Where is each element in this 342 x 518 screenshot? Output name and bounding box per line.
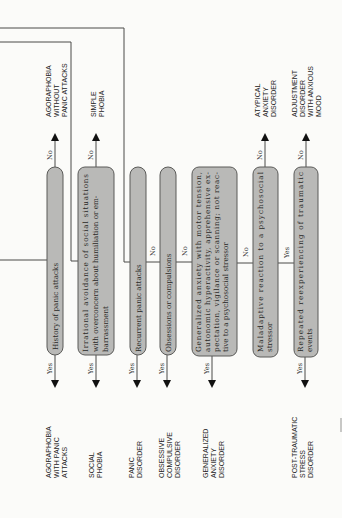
node-text: History of panic attacks [51, 263, 60, 350]
label-yes: Yes [296, 362, 304, 375]
svg-text:PHOBIA: PHOBIA [98, 90, 105, 117]
svg-text:SIMPLE: SIMPLE [90, 91, 97, 117]
svg-text:WITHOUT: WITHOUT [53, 84, 60, 117]
node-text: barrassment [101, 306, 110, 352]
outcome-agoraphobia-without-panic: AGORAPHOBIA WITHOUT PANIC ATTACKS [45, 63, 68, 117]
outcome-agoraphobia-with-panic: AGORAPHOBIA WITH PANIC ATTACKS [45, 426, 68, 478]
svg-text:WITH ANXIOUS: WITH ANXIOUS [307, 66, 314, 117]
node-text: autonomic hyperactivity, apprehensive ex… [203, 171, 212, 352]
svg-text:AGORAPHOBIA: AGORAPHOBIA [45, 65, 52, 117]
label-no: No [256, 150, 264, 160]
outcome-generalized-anxiety: GENERALIZED ANXIETY DISORDER [202, 429, 225, 478]
svg-text:STRESS: STRESS [299, 450, 306, 478]
svg-text:MOOD: MOOD [315, 95, 322, 117]
outcome-adjustment-disorder: ADJUSTMENT DISORDER WITH ANXIOUS MOOD [291, 66, 322, 117]
svg-text:POST-TRAUMATIC: POST-TRAUMATIC [291, 417, 298, 478]
svg-text:PANIC ATTACKS: PANIC ATTACKS [61, 63, 68, 117]
label-yes: Yes [46, 362, 54, 375]
node-text: Maladaptive reaction to a psychosocial [256, 171, 265, 352]
svg-text:SOCIAL: SOCIAL [88, 452, 95, 478]
node-text: Generalized anxiety with motor tension, [194, 172, 203, 352]
svg-text:DISORDER: DISORDER [136, 441, 143, 478]
svg-text:ATYPICAL: ATYPICAL [254, 84, 261, 117]
label-yes: Yes [128, 362, 136, 375]
node-text: events [305, 328, 314, 352]
svg-text:DISORDER: DISORDER [299, 80, 306, 117]
outcome-ptsd: POST-TRAUMATIC STRESS DISORDER [291, 417, 314, 478]
outcome-simple-phobia: SIMPLE PHOBIA [90, 90, 105, 117]
node-text: tive to a psychosocial stressor [221, 242, 230, 352]
svg-text:AGORAPHOBIA: AGORAPHOBIA [45, 426, 52, 478]
svg-text:PANIC: PANIC [128, 457, 135, 478]
label-yes: Yes [87, 362, 95, 375]
svg-text:DISORDER: DISORDER [307, 441, 314, 478]
outcome-social-phobia: SOCIAL PHOBIA [88, 451, 103, 478]
node-text: Repeated reexperiencing of traumatic [296, 172, 305, 352]
svg-text:GENERALIZED: GENERALIZED [202, 429, 209, 478]
outcomes-top: AGORAPHOBIA WITHOUT PANIC ATTACKS SIMPLE… [45, 63, 322, 117]
label-no: No [87, 150, 95, 160]
label-no: No [149, 246, 157, 256]
label-no: No [297, 150, 305, 160]
svg-text:COMPULSIVE: COMPULSIVE [166, 432, 173, 478]
svg-text:WITH PANIC: WITH PANIC [53, 437, 60, 478]
anxiety-disorder-flowchart: History of panic attacks Irrational avoi… [0, 0, 342, 518]
svg-text:ANXIETY: ANXIETY [210, 448, 217, 478]
svg-text:PHOBIA: PHOBIA [96, 451, 103, 478]
svg-text:ATTACKS: ATTACKS [61, 446, 68, 478]
node-text: Recurrent panic attacks [134, 264, 143, 352]
label-yes: Yes [203, 362, 211, 375]
outcome-obsessive-compulsive: OBSESSIVE COMPULSIVE DISORDER [158, 432, 181, 478]
node-text: stressor [265, 322, 274, 352]
label-no: No [46, 150, 54, 160]
node-text: Irrational avoidance of social situation… [81, 174, 90, 352]
svg-text:DISORDER: DISORDER [270, 80, 277, 117]
label-no: No [242, 247, 250, 257]
svg-text:ADJUSTMENT: ADJUSTMENT [291, 69, 298, 117]
label-yes: Yes [283, 246, 291, 259]
node-text: with overconcern about humiliation or em… [91, 195, 100, 352]
label-no: No [181, 246, 189, 256]
svg-text:DISORDER: DISORDER [174, 441, 181, 478]
svg-text:ANXIETY: ANXIETY [262, 87, 269, 117]
node-text: pectation, vigilance or scanning; not re… [212, 171, 221, 352]
outcome-atypical-anxiety: ATYPICAL ANXIETY DISORDER [254, 80, 277, 117]
label-yes: Yes [158, 362, 166, 375]
node-text: Obsessions or compulsions [164, 253, 173, 352]
svg-text:OBSESSIVE: OBSESSIVE [158, 438, 165, 478]
outcome-panic-disorder: PANIC DISORDER [128, 441, 143, 478]
outcomes-bottom: AGORAPHOBIA WITH PANIC ATTACKS SOCIAL PH… [45, 417, 314, 478]
svg-text:DISORDER: DISORDER [218, 441, 225, 478]
